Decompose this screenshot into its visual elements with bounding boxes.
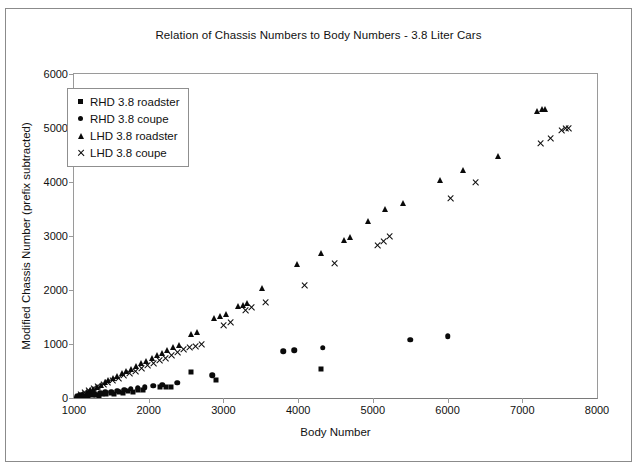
legend-item-label: LHD 3.8 coupe — [90, 147, 167, 159]
data-point-circle — [292, 348, 298, 354]
y-axis-tick — [69, 398, 74, 399]
data-point-circle — [159, 382, 165, 388]
data-point-cross — [537, 140, 544, 147]
data-point-cross — [220, 322, 227, 329]
y-axis-tick-label: 2000 — [44, 284, 68, 296]
data-point-cross — [331, 260, 338, 267]
data-point-circle — [280, 348, 286, 354]
legend-marker-cross-icon — [74, 146, 87, 159]
legend-item-label: LHD 3.8 roadster — [90, 130, 178, 142]
y-axis-tick — [69, 182, 74, 183]
data-point-triangle — [382, 206, 388, 212]
data-point-circle — [115, 388, 121, 394]
y-axis-tick-label: 4000 — [44, 176, 68, 188]
legend-marker-square-icon — [74, 95, 87, 108]
data-point-circle — [142, 384, 148, 390]
x-axis-tick-label: 8000 — [585, 404, 609, 416]
chart-title: Relation of Chassis Numbers to Body Numb… — [6, 29, 631, 41]
y-axis-tick — [69, 344, 74, 345]
data-point-square — [188, 370, 193, 375]
data-point-cross — [262, 299, 269, 306]
x-axis-tick-label: 4000 — [286, 404, 310, 416]
data-point-cross — [248, 304, 255, 311]
data-point-triangle — [294, 261, 300, 267]
x-axis-tick — [522, 398, 523, 403]
data-point-circle — [135, 385, 141, 391]
y-axis-title-label: Modified Chassis Number (prefix subtract… — [20, 122, 32, 350]
data-point-triangle — [460, 167, 466, 173]
x-axis-title: Body Number — [73, 426, 598, 438]
x-axis-tick-label: 5000 — [361, 404, 385, 416]
y-axis-tick — [69, 236, 74, 237]
x-axis-tick-label: 7000 — [510, 404, 534, 416]
y-axis-tick-label: 5000 — [44, 122, 68, 134]
data-point-triangle — [400, 200, 406, 206]
chart-legend: RHD 3.8 roadsterRHD 3.8 coupeLHD 3.8 roa… — [67, 88, 189, 167]
data-point-square — [169, 384, 174, 389]
data-point-cross — [198, 341, 205, 348]
legend-marker-triangle-icon — [74, 129, 87, 142]
legend-item[interactable]: RHD 3.8 coupe — [74, 110, 179, 127]
y-axis-tick-label: 6000 — [44, 68, 68, 80]
data-point-square — [213, 378, 218, 383]
data-point-circle — [109, 389, 115, 395]
x-axis-tick — [448, 398, 449, 403]
data-point-triangle — [437, 177, 443, 183]
data-point-cross — [472, 179, 479, 186]
data-point-triangle — [259, 285, 265, 291]
data-point-circle — [209, 373, 215, 379]
y-axis-tick-label: 0 — [62, 392, 68, 404]
data-point-triangle — [495, 153, 501, 159]
data-point-cross — [565, 125, 572, 132]
y-axis-title: Modified Chassis Number (prefix subtract… — [18, 73, 34, 399]
data-point-triangle — [194, 329, 200, 335]
x-axis-tick — [149, 398, 150, 403]
x-axis-title-label: Body Number — [300, 426, 370, 438]
data-point-circle — [445, 334, 451, 340]
x-axis-tick — [298, 398, 299, 403]
chart-figure: Relation of Chassis Numbers to Body Numb… — [5, 8, 632, 462]
data-point-circle — [320, 345, 326, 351]
data-point-cross — [301, 282, 308, 289]
data-point-cross — [547, 135, 554, 142]
data-point-triangle — [223, 311, 229, 317]
data-point-triangle — [347, 234, 353, 240]
data-point-circle — [150, 383, 156, 389]
legend-item-label: RHD 3.8 roadster — [90, 96, 179, 108]
legend-item[interactable]: LHD 3.8 coupe — [74, 144, 179, 161]
data-point-cross — [227, 319, 234, 326]
data-point-square — [318, 367, 323, 372]
data-point-cross — [386, 233, 393, 240]
y-axis-tick-label: 3000 — [44, 230, 68, 242]
x-axis-tick-label: 3000 — [211, 404, 235, 416]
data-point-circle — [121, 387, 127, 393]
y-axis-tick-label: 1000 — [44, 338, 68, 350]
legend-item[interactable]: RHD 3.8 roadster — [74, 93, 179, 110]
legend-marker-circle-icon — [74, 112, 87, 125]
x-axis-tick-label: 1000 — [62, 404, 86, 416]
x-axis-tick — [223, 398, 224, 403]
y-axis-tick — [69, 290, 74, 291]
data-point-circle — [103, 390, 109, 396]
data-point-cross — [447, 195, 454, 202]
x-axis-tick-label: 6000 — [435, 404, 459, 416]
data-point-triangle — [542, 106, 548, 112]
y-axis-tick — [69, 74, 74, 75]
data-point-triangle — [365, 218, 371, 224]
x-axis-tick — [373, 398, 374, 403]
legend-item[interactable]: LHD 3.8 roadster — [74, 127, 179, 144]
data-point-circle — [128, 386, 134, 392]
data-point-circle — [174, 380, 180, 386]
legend-item-label: RHD 3.8 coupe — [90, 113, 169, 125]
x-axis-tick-label: 2000 — [136, 404, 160, 416]
data-point-circle — [407, 337, 413, 343]
data-point-triangle — [318, 250, 324, 256]
